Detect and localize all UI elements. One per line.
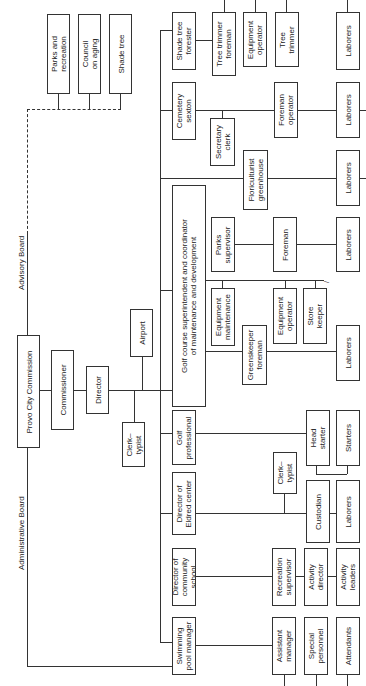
node-label: Secretary clerk <box>214 125 232 159</box>
connector <box>58 94 59 109</box>
node-secretary-clerk: Secretary clerk <box>210 118 235 166</box>
node-label: Shade tree forester <box>175 21 193 60</box>
connector <box>347 0 348 12</box>
node-label: Starters <box>344 424 353 452</box>
connector <box>134 390 135 422</box>
dashed-connector <box>27 109 28 234</box>
dashed-connector <box>27 109 121 110</box>
node-label: Clerk– typist <box>125 433 143 456</box>
connector <box>315 280 316 288</box>
node-laborers: Laborers <box>336 150 360 206</box>
connector <box>284 675 285 686</box>
connector <box>224 0 225 12</box>
node-label: Director of Eldred center <box>175 480 193 528</box>
node-shade-tree-forester: Shade tree forester <box>172 12 196 70</box>
connector <box>316 474 347 475</box>
node-cemetery-sexton: Cemetery sexton <box>172 82 196 140</box>
node-special-personnel: Special personnel <box>304 617 328 675</box>
node-label: Shade tree <box>116 34 125 73</box>
spine-connector <box>160 30 161 642</box>
node-equipment-maintenance: Equipment maintenance <box>211 288 235 346</box>
connector <box>160 642 172 643</box>
connector <box>160 290 172 291</box>
node-laborers: Laborers <box>336 325 360 381</box>
node-store-keeper: Store keeper <box>303 288 327 344</box>
connector <box>196 40 212 41</box>
node-label: Golf course superintendent and coordinat… <box>180 219 198 373</box>
connector <box>120 94 121 109</box>
connector <box>347 675 348 686</box>
connector <box>284 494 285 513</box>
node-label: Provo City Commission <box>24 350 33 433</box>
connector <box>27 234 28 335</box>
connector <box>40 390 51 391</box>
node-label: Laborers <box>344 496 353 528</box>
node-swimming-pool-manager: Swimming pool manager <box>172 617 196 675</box>
node-label: Director <box>93 376 102 404</box>
connector <box>206 351 336 352</box>
node-label: Tree trimmer <box>278 26 296 53</box>
node-label: Tree trimmer foreman <box>215 21 233 66</box>
node-activity-leaders: Activity leaders <box>336 548 360 606</box>
node-label: Swimming pool manager <box>175 622 193 671</box>
node-label: Cemetery sexton <box>175 94 193 129</box>
node-custodian: Custodian <box>306 480 330 543</box>
connector <box>27 666 172 667</box>
connector <box>160 433 172 434</box>
node-head-starter: Head starter <box>306 410 330 466</box>
node-label: Equipment operator <box>246 20 264 58</box>
tick-mark: / <box>323 281 330 283</box>
connector <box>328 576 336 577</box>
node-label: Clerk– typist <box>276 461 294 484</box>
node-foreman-operator: Foreman operator <box>274 82 298 138</box>
node-label: Laborers <box>344 162 353 194</box>
node-golf-course-superintendent: Golf course superintendent and coordinat… <box>172 185 206 407</box>
advisory-board-label: Advisory Board <box>17 236 26 290</box>
node-provo-city-commission: Provo City Commission <box>17 335 40 448</box>
node-label: Laborers <box>344 94 353 126</box>
node-commissioner: Commissioner <box>51 350 74 430</box>
node-laborers: Laborers <box>336 480 360 543</box>
node-council-on-aging: Council on aging <box>78 14 101 94</box>
connector <box>347 466 348 474</box>
node-label: Equipment maintenance <box>214 294 232 340</box>
connector <box>160 30 172 31</box>
node-label: Parks supervisor <box>214 226 232 263</box>
node-label: Head starter <box>309 427 327 450</box>
connector <box>196 576 272 577</box>
connector <box>222 110 223 118</box>
node-label: Attendants <box>344 627 353 665</box>
node-assistant-manager: Assistant manager <box>272 617 296 675</box>
connector <box>222 280 223 288</box>
node-equipment-operator: Equipment operator <box>273 288 297 344</box>
node-label: Equipment operator <box>276 297 294 335</box>
connector <box>316 675 317 686</box>
node-label: Golf professional <box>175 416 193 459</box>
node-laborers: Laborers <box>336 217 360 272</box>
connector <box>285 280 286 288</box>
connector <box>286 0 287 12</box>
node-clerk-typist: Clerk– typist <box>122 422 145 467</box>
node-activity-director: Activity director <box>304 548 328 606</box>
node-shade-tree: Shade tree <box>109 14 132 94</box>
node-director-eldred-center: Director of Eldred center <box>172 472 196 535</box>
node-tree-trimmer: Tree trimmer <box>275 12 299 67</box>
connector <box>160 513 172 514</box>
node-parks-and-recreation: Parks and recreation <box>47 14 70 94</box>
node-foreman: Foreman <box>273 217 297 272</box>
node-label: Council on aging <box>81 39 99 70</box>
node-label: Foreman operator <box>277 94 295 126</box>
connector <box>74 390 86 391</box>
node-label: Parks and recreation <box>50 36 68 72</box>
node-parks-supervisor: Parks supervisor <box>211 217 235 272</box>
node-equipment-operator: Equipment operator <box>243 12 267 67</box>
connector <box>160 110 172 111</box>
node-golf-professional: Golf professional <box>172 410 196 465</box>
connector <box>296 576 304 577</box>
connector <box>109 390 172 391</box>
node-label: Assistant manager <box>275 630 293 662</box>
node-label: Director of community school <box>172 558 196 597</box>
connector <box>27 448 28 666</box>
node-director: Director <box>86 366 109 414</box>
connector <box>196 513 306 514</box>
